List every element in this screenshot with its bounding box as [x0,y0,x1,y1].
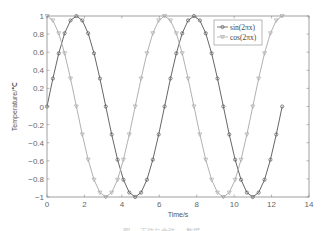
x-tick-label: 6 [157,200,162,209]
x-tick-label: 14 [305,200,314,209]
y-tick-label: 0.6 [33,48,45,57]
x-tick-label: 10 [230,200,239,209]
y-tick-label: 0.2 [33,84,45,93]
x-tick-label: 0 [45,200,50,209]
y-tick-label: −1 [35,193,45,202]
y-axis-label: Temperature/℃ [11,82,19,131]
y-tick-label: −0.4 [28,139,44,148]
y-tick-label: −0.2 [28,121,44,130]
y-tick-label: 0.4 [33,66,45,75]
x-tick-label: 4 [120,200,125,209]
legend: sin(2πx)cos(2πx) [214,20,262,45]
y-tick-label: 1 [40,12,45,21]
x-tick-label: 8 [194,200,199,209]
y-tick-label: 0.8 [33,30,45,39]
x-axis-label: Time/s [168,211,189,218]
y-tick-label: 0 [40,103,45,112]
x-tick-label: 2 [82,200,87,209]
y-tick-label: −0.8 [28,175,44,184]
axes-frame [47,16,309,197]
x-tick-label: 12 [267,200,276,209]
figure-caption: 图 … 正弦与余弦 … 数据 [0,226,323,231]
legend-label: cos(2πx) [230,33,257,42]
legend-label: sin(2πx) [230,23,256,32]
line-chart: 02468101214−1−0.8−0.6−0.4−0.200.20.40.60… [0,0,323,231]
y-tick-label: −0.6 [28,157,44,166]
